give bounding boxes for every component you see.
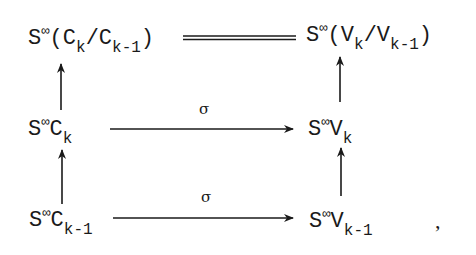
subscript: k	[354, 36, 364, 54]
node-base: S	[29, 208, 42, 233]
node-text: C	[50, 117, 63, 142]
subscript: k-1	[64, 221, 93, 239]
node-text: )	[141, 26, 154, 51]
subscript: k	[76, 39, 86, 57]
node-text: (C	[50, 26, 76, 51]
node-base: S	[306, 23, 319, 48]
infinity-sup: ∞	[321, 114, 329, 130]
node-base: S	[28, 117, 41, 142]
infinity-sup: ∞	[41, 23, 49, 39]
node-text: (V	[328, 23, 354, 48]
node-bottom-right: S∞Vk-1	[309, 207, 373, 239]
node-mid-right: S∞Vk	[308, 115, 352, 147]
trailing-comma: ,	[435, 208, 441, 234]
node-base: S	[28, 26, 41, 51]
node-top-left: S∞(Ck/Ck-1)	[28, 24, 154, 56]
node-text: V	[330, 117, 343, 142]
infinity-sup: ∞	[322, 206, 330, 222]
infinity-sup: ∞	[319, 20, 327, 36]
node-base: S	[309, 209, 322, 234]
node-mid-left: S∞Ck	[28, 115, 72, 147]
subscript: k	[63, 130, 73, 148]
node-text: /C	[86, 26, 112, 51]
sigma-label-middle: σ	[199, 100, 209, 118]
equality-double-line	[183, 36, 296, 40]
node-text: C	[51, 208, 64, 233]
node-top-right: S∞(Vk/Vk-1)	[306, 21, 432, 53]
sigma-label-bottom: σ	[201, 188, 211, 206]
subscript: k-1	[112, 39, 141, 57]
subscript: k-1	[390, 36, 419, 54]
subscript: k	[343, 130, 353, 148]
subscript: k-1	[344, 222, 373, 240]
infinity-sup: ∞	[41, 114, 49, 130]
node-bottom-left: S∞Ck-1	[29, 206, 93, 238]
node-text: /V	[364, 23, 390, 48]
node-text: )	[419, 23, 432, 48]
node-base: S	[308, 117, 321, 142]
node-text: V	[331, 209, 344, 234]
infinity-sup: ∞	[42, 205, 50, 221]
